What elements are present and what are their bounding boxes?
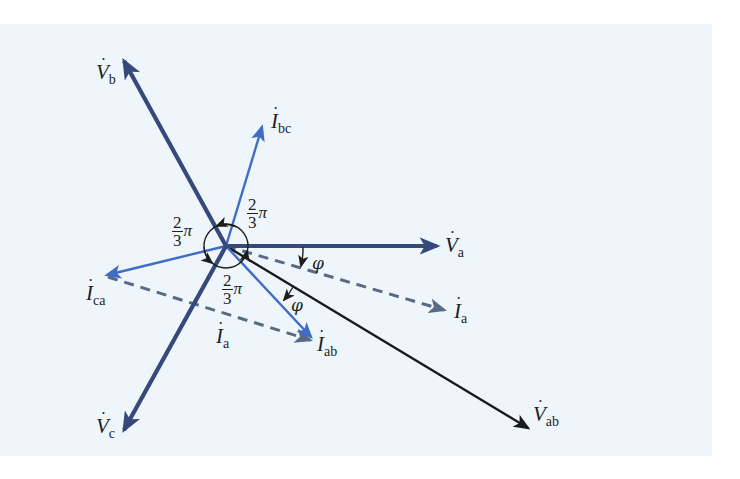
label-Vab: V·ab	[533, 404, 559, 425]
phi-arc-upper	[301, 247, 303, 266]
angle-label-lower: 23π	[222, 273, 242, 306]
label-Vc: V·c	[96, 416, 115, 437]
label-Ica: I·ca	[86, 283, 105, 304]
label-Va: V·a	[445, 235, 464, 256]
angle-label-left: 23π	[172, 215, 192, 248]
label-Ibc: I·bc	[271, 111, 291, 132]
phasor-Vab	[226, 246, 528, 428]
phasor-diagram: V·b V·c V·a V·ab I·bc I·ca I·ab I·a I·a …	[0, 0, 740, 479]
phasor-Ica	[107, 246, 226, 275]
phasor-Ia-lower	[108, 277, 310, 340]
label-Ia-lower: I·a	[216, 326, 229, 347]
label-Iab: I·ab	[317, 334, 337, 355]
label-Ia-right: I·a	[454, 301, 467, 322]
phi-label-upper: φ	[312, 253, 324, 273]
phasor-Ia-right	[226, 246, 444, 310]
label-Vb: V·b	[96, 62, 116, 83]
phi-label-lower: φ	[291, 295, 303, 315]
phasor-Vc	[124, 246, 226, 430]
angle-label-upper: 23π	[247, 197, 267, 230]
